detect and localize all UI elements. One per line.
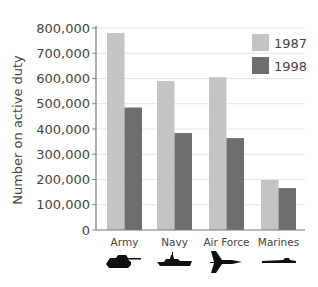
bar-army-1998 — [125, 108, 143, 230]
y-tick-label: 100,000 — [36, 197, 90, 212]
ship-icon — [157, 252, 192, 266]
x-tick-label: Navy — [161, 236, 188, 248]
legend-label-1987: 1987 — [274, 36, 307, 51]
legend-swatch-1987 — [252, 34, 269, 51]
bar-air-force-1998 — [227, 138, 245, 230]
y-tick-label: 200,000 — [36, 172, 90, 187]
bar-chart: 0100,000200,000300,000400,000500,000600,… — [0, 0, 318, 287]
y-tick-label: 500,000 — [36, 96, 90, 111]
fighter-jet-icon — [210, 251, 242, 273]
bar-marines-1998 — [279, 188, 297, 230]
y-axis-title: Number on active duty — [10, 55, 25, 205]
chart-canvas: 0100,000200,000300,000400,000500,000600,… — [0, 0, 318, 287]
tank-icon — [106, 255, 141, 268]
category-icons — [106, 251, 296, 273]
legend-label-1998: 1998 — [274, 59, 307, 74]
y-tick-label: 400,000 — [36, 122, 90, 137]
y-tick-label: 600,000 — [36, 71, 90, 86]
y-tick-label: 300,000 — [36, 147, 90, 162]
bar-army-1987 — [107, 33, 125, 230]
x-tick-label: Army — [111, 236, 139, 248]
y-tick-label: 0 — [82, 223, 90, 238]
x-tick-labels: ArmyNavyAir ForceMarines — [111, 236, 300, 248]
submarine-icon — [262, 258, 296, 263]
x-tick-label: Marines — [258, 236, 299, 248]
bar-marines-1987 — [261, 180, 279, 230]
y-tick-label: 800,000 — [36, 21, 90, 36]
bar-navy-1998 — [175, 133, 193, 230]
bar-air-force-1987 — [209, 77, 227, 230]
y-tick-label: 700,000 — [36, 46, 90, 61]
legend-swatch-1998 — [252, 57, 269, 74]
bar-navy-1987 — [157, 81, 175, 230]
legend: 19871998 — [252, 34, 307, 74]
y-tick-labels: 0100,000200,000300,000400,000500,000600,… — [36, 21, 90, 238]
x-tick-label: Air Force — [203, 236, 249, 248]
